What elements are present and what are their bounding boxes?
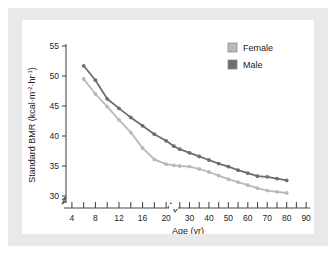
- data-point-female: [94, 92, 98, 96]
- data-point-male: [236, 168, 240, 172]
- data-point-male: [246, 171, 250, 175]
- data-point-female: [164, 162, 168, 166]
- legend-swatch-male: [228, 60, 237, 69]
- data-point-male: [226, 165, 230, 169]
- data-point-female: [178, 164, 182, 168]
- data-point-male: [188, 151, 192, 155]
- chart-card: 3035404550554812162030405060708090Age (y…: [22, 20, 314, 234]
- x-tick-label: 30: [185, 213, 195, 223]
- data-point-male: [129, 116, 133, 120]
- data-point-female: [236, 180, 240, 184]
- data-point-male: [256, 174, 260, 178]
- data-point-female: [275, 190, 279, 194]
- x-tick-label: 16: [138, 213, 148, 223]
- x-tick-label: 20: [161, 213, 171, 223]
- figure-outer-panel: 3035404550554812162030405060708090Age (y…: [8, 8, 328, 246]
- data-point-female: [152, 158, 156, 162]
- data-point-female: [265, 189, 269, 193]
- data-point-male: [207, 158, 211, 162]
- x-tick-label: 60: [243, 213, 253, 223]
- data-point-male: [164, 139, 168, 143]
- legend-swatch-female: [228, 43, 237, 52]
- data-point-male: [275, 177, 279, 181]
- data-point-male: [82, 64, 86, 68]
- legend-label-female: Female: [243, 43, 273, 53]
- y-tick-label: 55: [50, 41, 60, 51]
- y-axis-title-text: Standard BMR (kcal·m-2·hr-1): [27, 67, 37, 183]
- data-point-female: [82, 77, 86, 81]
- data-point-male: [105, 97, 109, 101]
- x-tick-label: 4: [70, 213, 75, 223]
- data-point-male: [178, 147, 182, 151]
- data-point-female: [207, 170, 211, 174]
- legend-label-male: Male: [243, 60, 263, 70]
- data-point-male: [94, 78, 98, 82]
- y-tick-label: 45: [50, 101, 60, 111]
- data-point-male: [217, 162, 221, 166]
- x-tick-label: 12: [114, 213, 124, 223]
- data-point-female: [188, 165, 192, 169]
- y-tick-label: 30: [50, 191, 60, 201]
- x-tick-label: 90: [301, 213, 311, 223]
- data-point-male: [152, 132, 156, 136]
- data-point-female: [105, 105, 109, 109]
- data-point-male: [197, 155, 201, 159]
- y-axis-break-icon: [62, 197, 66, 204]
- x-tick-label: 70: [263, 213, 273, 223]
- figure-root: 3035404550554812162030405060708090Age (y…: [0, 0, 336, 254]
- data-point-female: [285, 191, 289, 195]
- data-point-male: [172, 144, 176, 148]
- data-point-female: [129, 131, 133, 135]
- x-tick-label: 50: [224, 213, 234, 223]
- x-tick-label: 80: [282, 213, 292, 223]
- x-break-mask: [169, 204, 178, 209]
- data-point-male: [265, 175, 269, 179]
- data-point-female: [117, 118, 121, 122]
- data-point-female: [226, 177, 230, 181]
- data-point-male: [141, 124, 145, 128]
- y-tick-label: 50: [50, 71, 60, 81]
- x-axis-title: Age (yr): [172, 226, 204, 234]
- x-tick-label: 8: [93, 213, 98, 223]
- data-point-female: [217, 174, 221, 178]
- data-point-female: [246, 183, 250, 187]
- series-line-male: [84, 66, 287, 181]
- y-tick-label: 35: [50, 161, 60, 171]
- y-tick-label: 40: [50, 131, 60, 141]
- data-point-male: [117, 107, 121, 111]
- data-point-female: [197, 167, 201, 171]
- x-tick-label: 40: [204, 213, 214, 223]
- data-point-female: [172, 164, 176, 168]
- y-axis-title: Standard BMR (kcal·m-2·hr-1): [27, 67, 37, 183]
- data-point-female: [141, 146, 145, 150]
- bmr-line-chart: 3035404550554812162030405060708090Age (y…: [22, 20, 314, 234]
- data-point-female: [256, 186, 260, 190]
- data-point-male: [285, 179, 289, 183]
